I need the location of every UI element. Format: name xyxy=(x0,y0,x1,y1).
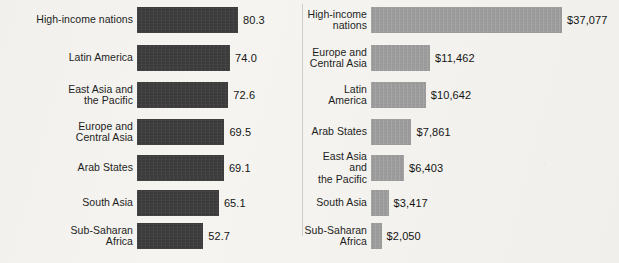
category-label: Latin America xyxy=(0,52,133,64)
category-label: Europe and Central Asia xyxy=(0,121,133,144)
bar xyxy=(371,155,404,181)
bar-value-label: $37,077 xyxy=(567,14,607,26)
bar-row: Sub-Saharan Africa$2,050 xyxy=(303,222,619,250)
bar xyxy=(371,190,389,216)
bar-and-value: 69.1 xyxy=(137,155,251,181)
bar-value-label: 69.1 xyxy=(229,162,251,174)
bar-and-value: 52.7 xyxy=(137,223,230,249)
bar xyxy=(371,7,562,33)
bar-and-value: $11,462 xyxy=(371,45,475,71)
bar xyxy=(137,223,203,249)
bar-and-value: 69.5 xyxy=(137,119,251,145)
bar xyxy=(137,45,230,71)
bar-row: East Asia and the Pacific72.6 xyxy=(0,81,302,109)
bar-and-value: 72.6 xyxy=(137,82,255,108)
bar-row: Latin America74.0 xyxy=(0,44,302,72)
bar-value-label: 74.0 xyxy=(235,52,257,64)
category-label: Arab States xyxy=(0,162,133,174)
category-label: South Asia xyxy=(0,197,133,209)
bar xyxy=(137,155,224,181)
bar-value-label: $2,050 xyxy=(387,230,421,242)
bar-and-value: $10,642 xyxy=(371,82,471,108)
bar-and-value: 65.1 xyxy=(137,190,246,216)
category-label: Sub-Saharan Africa xyxy=(0,225,133,248)
category-label: East Asia and the Pacific xyxy=(0,84,133,107)
bar-and-value: $7,861 xyxy=(371,119,451,145)
bar-and-value: $3,417 xyxy=(371,190,428,216)
bar-and-value: 74.0 xyxy=(137,45,257,71)
bar xyxy=(137,119,224,145)
bar-value-label: $10,642 xyxy=(431,89,471,101)
category-label: South Asia xyxy=(303,197,367,209)
category-label: East Asia and the Pacific xyxy=(303,151,367,186)
bar-row: High-income nations$37,077 xyxy=(303,6,619,34)
bar-row: South Asia$3,417 xyxy=(303,189,619,217)
bar-value-label: $7,861 xyxy=(416,126,450,138)
bar xyxy=(137,190,219,216)
figure-page: High-income nations80.3Latin America74.0… xyxy=(0,0,619,263)
bar-and-value: $37,077 xyxy=(371,7,607,33)
category-label: Arab States xyxy=(303,126,367,138)
bar-value-label: $3,417 xyxy=(394,197,428,209)
category-label: High-income nations xyxy=(0,14,133,26)
bar-and-value: $2,050 xyxy=(371,223,421,249)
bar-row: Arab States69.1 xyxy=(0,154,302,182)
bar-and-value: $6,403 xyxy=(371,155,443,181)
bar-row: Europe and Central Asia69.5 xyxy=(0,118,302,146)
bar-row: Europe and Central Asia$11,462 xyxy=(303,44,619,72)
category-label: High-income nations xyxy=(303,9,367,32)
bar-value-label: $6,403 xyxy=(409,162,443,174)
bar xyxy=(371,223,382,249)
bar xyxy=(371,119,411,145)
bar-row: High-income nations80.3 xyxy=(0,6,302,34)
bar-value-label: 69.5 xyxy=(229,126,251,138)
bar xyxy=(137,82,228,108)
bar-row: Arab States$7,861 xyxy=(303,118,619,146)
category-label: Sub-Saharan Africa xyxy=(303,225,367,248)
bar-row: East Asia and the Pacific$6,403 xyxy=(303,154,619,182)
two-panel-bar-figure: High-income nations80.3Latin America74.0… xyxy=(0,0,619,263)
bar-row: Latin America$10,642 xyxy=(303,81,619,109)
bar-value-label: 80.3 xyxy=(243,14,265,26)
category-label: Europe and Central Asia xyxy=(303,47,367,70)
bar-row: Sub-Saharan Africa52.7 xyxy=(0,222,302,250)
bar xyxy=(371,82,426,108)
bar-and-value: 80.3 xyxy=(137,7,265,33)
bar-row: South Asia65.1 xyxy=(0,189,302,217)
bar-value-label: 72.6 xyxy=(233,89,255,101)
bar-value-label: 65.1 xyxy=(224,197,246,209)
category-label: Latin America xyxy=(303,84,367,107)
bar-value-label: $11,462 xyxy=(435,52,475,64)
bar xyxy=(371,45,430,71)
bar xyxy=(137,7,238,33)
bar-value-label: 52.7 xyxy=(208,230,230,242)
